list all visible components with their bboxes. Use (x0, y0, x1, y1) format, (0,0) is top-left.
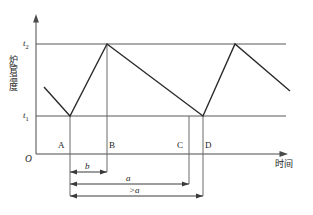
dimension-label-greater-a: >a (129, 186, 140, 195)
dimension-arrow-a-right (182, 181, 189, 186)
dimension-label-b: b (85, 162, 90, 171)
point-label-c: C (177, 141, 183, 150)
dimension-arrow-ga-right (196, 193, 203, 198)
y-axis-title: 炉管温度 (8, 55, 17, 111)
dimension-label-a: a (126, 174, 131, 183)
point-label-d: D (205, 141, 212, 150)
dimension-arrow-b-right (100, 169, 107, 174)
point-label-b: B (109, 141, 115, 150)
temperature-curve (44, 44, 290, 116)
y-tick-label-t1: t1 (23, 111, 29, 122)
x-axis-title: 时间 (275, 160, 293, 169)
point-label-a: A (58, 141, 65, 150)
y-axis-arrowhead (33, 14, 39, 23)
y-tick-t1-subscript: 1 (26, 115, 29, 122)
origin-label: O (25, 155, 32, 165)
dimension-arrow-b-left (70, 169, 77, 174)
y-tick-label-t2: t2 (23, 39, 29, 50)
x-axis-arrowhead (280, 151, 289, 157)
dimension-arrow-a-left (70, 181, 77, 186)
y-tick-t2-subscript: 2 (26, 43, 29, 50)
diagram-canvas (0, 0, 313, 215)
furnace-temperature-diagram: t2 t1 O 炉管温度 时间 A B C D b a >a (0, 0, 313, 215)
dimension-arrow-ga-left (70, 193, 77, 198)
